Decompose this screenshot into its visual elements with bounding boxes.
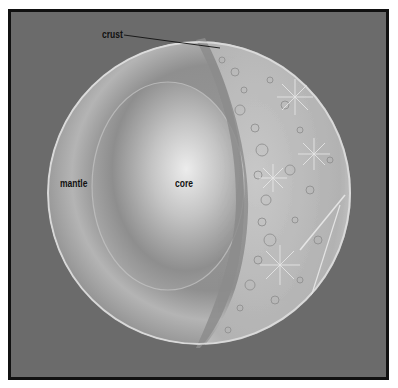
core-label: core	[175, 178, 193, 189]
diagram-frame: crust mantle core	[8, 9, 389, 380]
crust-label: crust	[102, 29, 123, 40]
core-layer	[92, 82, 244, 290]
planet-cutaway-illustration	[8, 9, 389, 380]
mantle-label: mantle	[60, 178, 87, 189]
